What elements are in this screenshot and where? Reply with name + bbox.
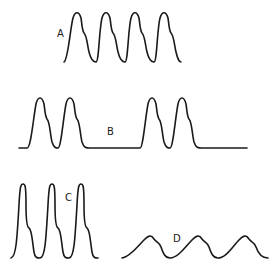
waveform-b: B	[19, 98, 247, 148]
waveform-b-trace	[19, 98, 247, 148]
label-c: C	[65, 192, 72, 203]
waveform-c-trace	[11, 184, 98, 258]
waveform-d-trace	[122, 236, 268, 258]
waveform-diagram: A B C D	[0, 0, 275, 274]
label-a: A	[57, 28, 64, 39]
waveform-a-trace	[64, 13, 181, 62]
waveform-d: D	[122, 233, 268, 258]
label-b: B	[107, 126, 114, 137]
label-d: D	[173, 233, 181, 244]
waveform-c: C	[11, 184, 98, 258]
waveform-a: A	[57, 13, 181, 62]
